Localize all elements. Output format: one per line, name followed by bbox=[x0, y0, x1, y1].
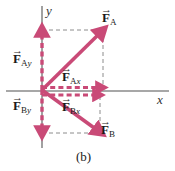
label-fb-base: →F bbox=[101, 123, 109, 136]
vector-arrow-icon: → bbox=[12, 92, 23, 103]
label-fa: →FA bbox=[102, 11, 116, 27]
vector-decomposition-figure: y x →FA →FAy →FAx →FBy →FBx →FB (b) bbox=[0, 0, 175, 171]
label-fb: →FB bbox=[101, 123, 115, 139]
label-fay: →FAy bbox=[13, 52, 31, 68]
label-fby-base: →F bbox=[13, 99, 21, 112]
label-fby: →FBy bbox=[13, 99, 31, 115]
vector-arrow-icon: → bbox=[61, 63, 72, 74]
vector-arrow-icon: → bbox=[101, 4, 112, 15]
label-fa-base: →F bbox=[102, 11, 110, 24]
vector-arrow-icon: → bbox=[12, 45, 23, 56]
label-fby-sub-axis: y bbox=[27, 105, 31, 115]
x-axis-label: x bbox=[157, 93, 163, 106]
figure-canvas bbox=[0, 0, 175, 171]
figure-caption: (b) bbox=[76, 150, 91, 163]
label-fb-sub: B bbox=[109, 129, 115, 139]
y-axis-label: y bbox=[46, 4, 52, 17]
label-fbx-base: →F bbox=[62, 100, 70, 113]
label-fbx: →FBx bbox=[62, 100, 80, 116]
label-fay-sub-axis: y bbox=[27, 58, 31, 68]
label-fbx-sub-axis: x bbox=[76, 106, 80, 116]
axes bbox=[6, 6, 169, 148]
vector-arrow-icon: → bbox=[100, 116, 111, 127]
vector-arrow-icon: → bbox=[61, 93, 72, 104]
label-fay-base: →F bbox=[13, 52, 21, 65]
label-fax-base: →F bbox=[62, 70, 70, 83]
label-fax-sub-axis: x bbox=[76, 76, 80, 86]
label-fax: →FAx bbox=[62, 70, 80, 86]
label-fa-sub: A bbox=[110, 17, 117, 27]
